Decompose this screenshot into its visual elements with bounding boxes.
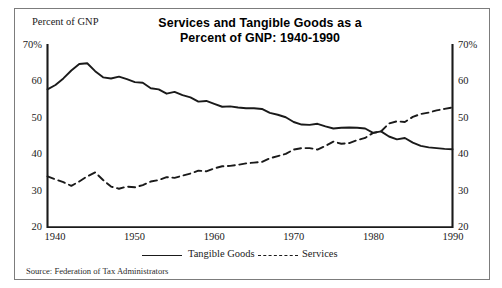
axes <box>47 44 453 228</box>
ytick-right-30: 30 <box>458 185 490 196</box>
xtick-1990: 1990 <box>430 231 476 242</box>
ytick-left-60: 60 <box>10 75 42 86</box>
legend-label-services: Services <box>302 248 338 259</box>
series-line-tangible-goods <box>48 63 453 149</box>
source-note: Source: Federation of Tax Administrators <box>26 266 168 276</box>
ytick-left-70: 70% <box>10 39 42 50</box>
ytick-left-50: 50 <box>10 112 42 123</box>
ytick-right-40: 40 <box>458 148 490 159</box>
xtick-1950: 1950 <box>112 231 158 242</box>
legend-swatch-tangible-goods <box>142 255 182 256</box>
xtick-1980: 1980 <box>350 231 396 242</box>
ytick-right-60: 60 <box>458 75 490 86</box>
series-line-services <box>48 107 453 188</box>
xtick-1960: 1960 <box>191 231 237 242</box>
ytick-right-70: 70% <box>458 39 490 50</box>
xtick-1940: 1940 <box>32 231 78 242</box>
data-series-group <box>48 63 453 189</box>
chart-figure: Percent of GNP Services and Tangible Goo… <box>0 0 502 288</box>
xtick-1970: 1970 <box>271 231 317 242</box>
chart-legend: Tangible Goods Services <box>130 248 360 264</box>
legend-label-tangible-goods: Tangible Goods <box>188 248 255 259</box>
ytick-left-30: 30 <box>10 185 42 196</box>
ytick-right-50: 50 <box>458 112 490 123</box>
legend-swatch-services <box>258 255 298 256</box>
ytick-left-40: 40 <box>10 148 42 159</box>
plot-area <box>0 0 502 288</box>
